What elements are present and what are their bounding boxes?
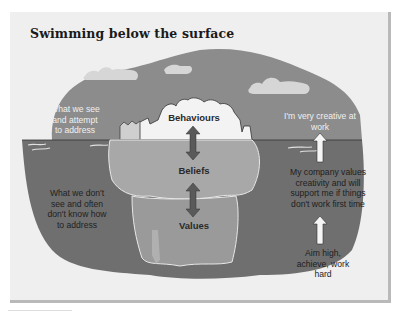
diagram-title: Swimming below the surface <box>30 26 234 41</box>
label-beliefs: Beliefs <box>170 165 218 176</box>
label-values: Values <box>170 220 218 231</box>
iceberg-values <box>132 196 238 266</box>
label-aim-high: Aim high, achieve, work hard <box>290 248 356 280</box>
label-what-we-see: What we see and attempt to address <box>50 104 100 136</box>
label-behaviours: Behaviours <box>163 112 225 123</box>
label-creative-at-work: I'm very creative at work <box>282 111 358 132</box>
footer-divider <box>8 310 72 311</box>
label-what-we-dont-see: What we don't see and often don't know h… <box>44 188 110 230</box>
label-company-values: My company values creativity and will su… <box>288 167 368 209</box>
